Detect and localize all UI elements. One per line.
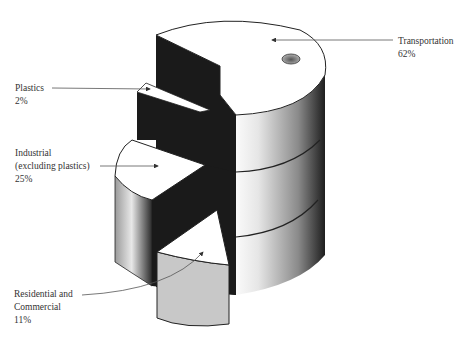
- plastics-callout: [52, 88, 150, 89]
- label-plastics: Plastics 2%: [15, 82, 44, 108]
- label-transportation: Transportation 62%: [398, 35, 454, 61]
- label-residential: Residential and Commercial 11%: [14, 288, 73, 327]
- center-hole-icon: [282, 54, 300, 64]
- label-industrial: Industrial (excluding plastics) 25%: [15, 147, 90, 186]
